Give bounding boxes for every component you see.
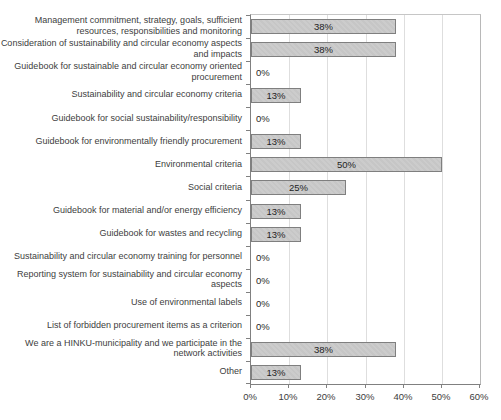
- data-label: 0%: [256, 65, 286, 80]
- gridline: [366, 15, 367, 384]
- y-axis-tick: [246, 15, 250, 16]
- gridline: [327, 15, 328, 384]
- y-axis-tick: [246, 153, 250, 154]
- category-label: Guidebook for material and/or energy eff…: [0, 199, 246, 222]
- data-label: 38%: [251, 342, 396, 357]
- y-axis-tick: [246, 361, 250, 362]
- data-label: 13%: [251, 365, 301, 380]
- category-label: Reporting system for sustainability and …: [0, 268, 246, 291]
- data-label: 13%: [251, 134, 301, 149]
- data-label: 38%: [251, 42, 396, 57]
- category-label: Guidebook for environmentally friendly p…: [0, 129, 246, 152]
- category-label: Environmental criteria: [0, 152, 246, 175]
- y-axis-tick: [246, 200, 250, 201]
- category-label: Guidebook for social sustainability/resp…: [0, 106, 246, 129]
- x-axis-tick-label: 0%: [233, 391, 267, 402]
- x-axis-tick: [479, 384, 480, 388]
- y-axis-tick: [246, 61, 250, 62]
- x-axis-tick-label: 40%: [386, 391, 420, 402]
- category-label: Sustainability and circular economy trai…: [0, 245, 246, 268]
- gridline: [442, 15, 443, 384]
- gridline: [289, 15, 290, 384]
- plot-area: 38%38%0%13%0%13%50%25%13%13%0%0%0%0%38%1…: [250, 14, 481, 385]
- data-label: 13%: [251, 88, 301, 103]
- x-axis-tick: [250, 384, 251, 388]
- x-axis-tick-label: 60%: [462, 391, 496, 402]
- y-axis-tick: [246, 269, 250, 270]
- y-axis-tick: [246, 107, 250, 108]
- data-label: 38%: [251, 19, 396, 34]
- survey-bar-chart: Management commitment, strategy, goals, …: [0, 0, 501, 420]
- category-label: Social criteria: [0, 175, 246, 198]
- y-axis-tick: [246, 84, 250, 85]
- data-label: 0%: [256, 111, 286, 126]
- x-axis-tick: [441, 384, 442, 388]
- y-axis-tick: [246, 315, 250, 316]
- x-axis-tick-label: 50%: [424, 391, 458, 402]
- data-label: 25%: [251, 180, 346, 195]
- category-label: Guidebook for sustainable and circular e…: [0, 60, 246, 83]
- category-label: Sustainability and circular economy crit…: [0, 83, 246, 106]
- y-axis-tick: [246, 38, 250, 39]
- x-axis-tick-label: 10%: [271, 391, 305, 402]
- y-axis-tick: [246, 176, 250, 177]
- category-label: Management commitment, strategy, goals, …: [0, 14, 246, 37]
- y-axis-tick: [246, 223, 250, 224]
- y-axis-tick: [246, 292, 250, 293]
- x-axis-tick-label: 20%: [309, 391, 343, 402]
- data-label: 13%: [251, 204, 301, 219]
- category-label: Consideration of sustainability and circ…: [0, 37, 246, 60]
- data-label: 13%: [251, 227, 301, 242]
- category-label: We are a HINKU-municipality and we parti…: [0, 337, 246, 360]
- data-label: 0%: [256, 273, 286, 288]
- data-label: 50%: [251, 157, 442, 172]
- x-axis-tick: [365, 384, 366, 388]
- category-label: Other: [0, 360, 246, 383]
- y-axis-tick: [246, 338, 250, 339]
- data-label: 0%: [256, 250, 286, 265]
- data-label: 0%: [256, 296, 286, 311]
- y-axis-tick: [246, 130, 250, 131]
- x-axis-tick-label: 30%: [348, 391, 382, 402]
- y-axis-tick: [246, 246, 250, 247]
- category-label: Guidebook for wastes and recycling: [0, 222, 246, 245]
- x-axis-tick: [288, 384, 289, 388]
- x-axis-tick: [403, 384, 404, 388]
- category-label: List of forbidden procurement items as a…: [0, 314, 246, 337]
- x-axis-tick: [326, 384, 327, 388]
- gridline: [404, 15, 405, 384]
- data-label: 0%: [256, 319, 286, 334]
- category-label: Use of environmental labels: [0, 291, 246, 314]
